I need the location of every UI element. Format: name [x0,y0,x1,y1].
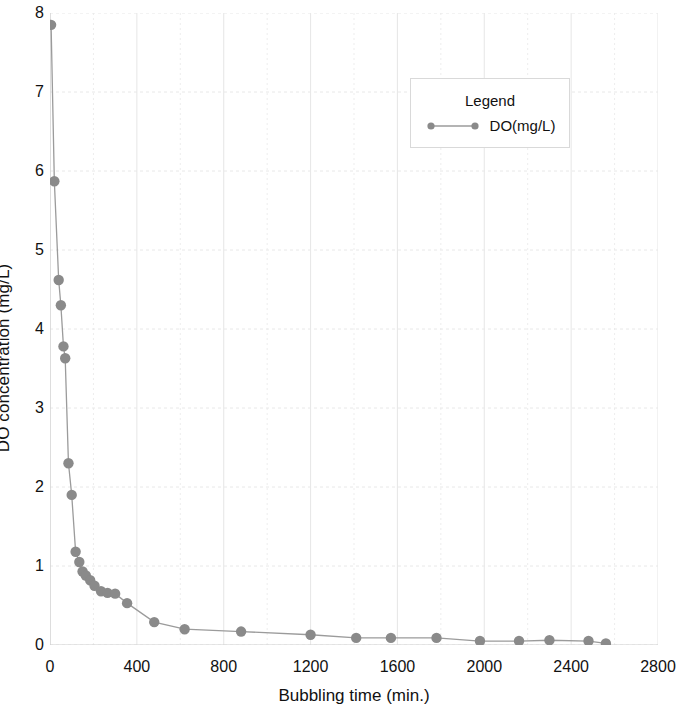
data-point [63,458,73,468]
data-point [110,588,120,598]
chart-legend: Legend DO(mg/L) [410,78,570,148]
y-axis-tick-labels: 012345678 [0,0,44,716]
x-tick-label: 800 [194,658,254,676]
y-tick-label: 4 [18,320,44,338]
data-point [122,598,132,608]
data-point [601,638,611,645]
legend-entry: DO(mg/L) [425,117,556,134]
x-tick-label: 2400 [541,658,601,676]
y-tick-label: 0 [18,636,44,654]
y-tick-label: 7 [18,83,44,101]
data-point [305,630,315,640]
data-point [50,176,60,186]
data-point [514,636,524,645]
x-tick-label: 2000 [454,658,514,676]
legend-entry-label: DO(mg/L) [490,117,556,134]
y-tick-label: 6 [18,162,44,180]
data-point [149,617,159,627]
data-point [56,300,66,310]
data-point [67,490,77,500]
x-tick-label: 400 [107,658,167,676]
data-point [386,633,396,643]
y-tick-label: 8 [18,4,44,22]
x-axis-tick-labels: 040080012001600200024002800 [0,658,680,684]
data-point [544,635,554,645]
data-point [50,20,56,30]
x-tick-label: 1200 [281,658,341,676]
x-tick-label: 1600 [367,658,427,676]
data-point [74,557,84,567]
y-tick-label: 2 [18,478,44,496]
x-tick-label: 0 [20,658,80,676]
data-point [475,636,485,645]
data-point [60,353,70,363]
y-tick-label: 1 [18,557,44,575]
data-point [583,636,593,645]
data-point [236,626,246,636]
data-point [179,624,189,634]
y-tick-label: 5 [18,241,44,259]
x-tick-label: 2800 [628,658,680,676]
y-tick-label: 3 [18,399,44,417]
legend-title: Legend [465,92,515,109]
data-point [58,341,68,351]
x-axis-title: Bubbling time (min.) [48,686,660,706]
data-point [53,275,63,285]
data-point [431,633,441,643]
chart-figure: DO concentration (mg/L) 012345678 040080… [0,0,680,716]
data-point [351,633,361,643]
data-point [70,547,80,557]
legend-marker-icon [425,119,481,133]
